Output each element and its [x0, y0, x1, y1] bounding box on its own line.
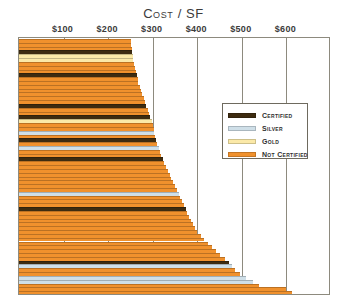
legend-swatch-icon	[228, 126, 256, 131]
plot-area	[18, 37, 330, 295]
x-tick-label-300: $300	[141, 24, 162, 34]
legend-item-label: Not Certified	[262, 151, 308, 158]
legend-item-label: Certified	[262, 112, 293, 119]
x-tick-label-400: $400	[186, 24, 207, 34]
x-tick-label-200: $200	[97, 24, 118, 34]
legend-item-label: Silver	[262, 125, 283, 132]
legend-item-label: Gold	[262, 138, 279, 145]
bar-row	[19, 291, 292, 295]
legend-item-silver[interactable]: Silver	[228, 122, 302, 134]
legend-swatch-icon	[228, 139, 256, 144]
legend-item-not-certified[interactable]: Not Certified	[228, 148, 302, 160]
x-tick-label-100: $100	[52, 24, 73, 34]
legend-item-certified[interactable]: Certified	[228, 109, 302, 121]
legend-swatch-icon	[228, 113, 256, 118]
legend-swatch-icon	[228, 152, 256, 157]
legend-item-gold[interactable]: Gold	[228, 135, 302, 147]
page-title: Cost / SF	[0, 6, 347, 21]
bar-series	[19, 38, 329, 294]
x-tick-label-500: $500	[230, 24, 251, 34]
chart-legend: CertifiedSilverGoldNot Certified	[222, 103, 308, 159]
chart-container: Cost / SF $100$200$300$400$500$600 Certi…	[0, 0, 347, 306]
x-tick-label-600: $600	[275, 24, 296, 34]
x-axis-tick-labels: $100$200$300$400$500$600	[0, 24, 347, 36]
